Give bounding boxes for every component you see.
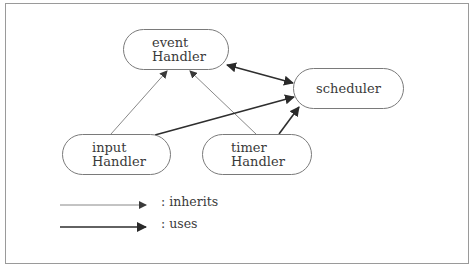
edge-timer-inherits-event — [190, 71, 256, 134]
edge-input-uses-scheduler — [155, 97, 294, 135]
legend-inherits-label: : inherits — [161, 194, 218, 209]
edge-event-uses-scheduler — [227, 65, 293, 83]
node-timer-handler: timer Handler — [202, 134, 312, 175]
node-scheduler: scheduler — [293, 68, 404, 109]
node-label-line1: event — [152, 36, 228, 50]
node-label-line2: Handler — [231, 155, 311, 169]
node-label-line1: input — [92, 141, 170, 155]
node-label-line1: timer — [231, 141, 311, 155]
edge-timer-uses-scheduler — [279, 107, 299, 134]
node-event-handler: event Handler — [123, 29, 229, 70]
node-label-line2: Handler — [152, 50, 228, 64]
node-label: scheduler — [316, 82, 381, 96]
edge-input-inherits-event — [111, 71, 167, 134]
node-input-handler: input Handler — [62, 134, 171, 175]
node-label-line2: Handler — [92, 155, 170, 169]
legend-uses-label: : uses — [161, 216, 197, 231]
